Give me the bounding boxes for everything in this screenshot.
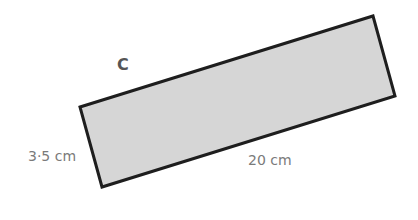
length-dimension-label: 20 cm bbox=[248, 153, 292, 167]
width-dimension-label: 3·5 cm bbox=[28, 149, 76, 163]
rectangle-figure bbox=[0, 0, 418, 220]
diagram-canvas: C 3·5 cm 20 cm bbox=[0, 0, 418, 220]
rotated-rectangle bbox=[80, 16, 395, 187]
shape-label: C bbox=[117, 57, 129, 73]
